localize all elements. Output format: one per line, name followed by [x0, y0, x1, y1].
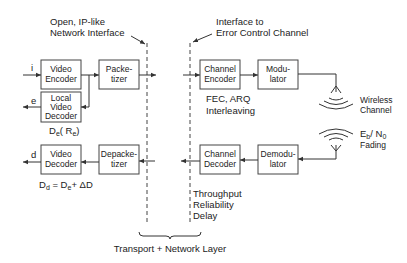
- encoder-distortion-label: De( Re): [49, 125, 80, 137]
- transport-network-layer-label: Transport + Network Layer: [114, 243, 226, 254]
- antenna-to-demodulator-arrow: [298, 145, 336, 159]
- video-decoder-block: Video Decoder: [41, 145, 81, 174]
- video-decoder-label-1: Video: [50, 149, 72, 159]
- demodulator-block: Demodu- lator: [258, 145, 298, 174]
- modulator-to-antenna-line: [298, 74, 336, 92]
- local-video-decoder-block: Local Video Decoder: [41, 92, 81, 122]
- depacketizer-block: Depacke- tizer: [99, 145, 139, 174]
- reliability-label: Reliability: [193, 199, 234, 210]
- video-encoder-label-2: Encoder: [45, 74, 77, 84]
- input-signal-label: i: [31, 62, 33, 73]
- open-interface-label-line2: Network Interface: [50, 27, 124, 38]
- channel-decoder-block: Channel Decoder: [200, 145, 240, 174]
- layer-brace: [139, 232, 201, 239]
- eb-n0-label: Eb/ N0: [360, 128, 386, 140]
- channel-decoder-label-2: Decoder: [204, 159, 236, 169]
- error-control-interface-pointer: [193, 34, 212, 42]
- channel-encoder-label-1: Channel: [204, 64, 236, 74]
- modulator-label-2: lator: [270, 74, 287, 84]
- demodulator-label-1: Demodu-: [261, 149, 296, 159]
- video-encoder-label-1: Video: [50, 64, 72, 74]
- wireless-label-2: Channel: [360, 105, 392, 115]
- modulator-block: Modu- lator: [258, 60, 298, 89]
- modulator-label-1: Modu-: [266, 64, 290, 74]
- local-decoder-label-3: Decoder: [45, 111, 77, 121]
- video-encoder-block: Video Encoder: [41, 60, 81, 89]
- error-control-interface-label-line1: Interface to: [216, 16, 264, 27]
- throughput-label: Throughput: [193, 188, 242, 199]
- depacketizer-label-1: Depacke-: [101, 149, 138, 159]
- local-output-label: e: [31, 95, 36, 106]
- interleaving-label: Interleaving: [206, 105, 255, 116]
- open-interface-label-line1: Open, IP-like: [50, 16, 105, 27]
- packetizer-block: Packe- tizer: [99, 60, 139, 89]
- demodulator-label-2: lator: [270, 159, 287, 169]
- video-decoder-label-2: Decoder: [45, 159, 77, 169]
- channel-encoder-label-2: Encoder: [204, 74, 236, 84]
- encoder-to-local-decoder-feedback: [81, 75, 89, 107]
- decoded-output-label: d: [31, 149, 36, 160]
- depacketizer-label-2: tizer: [111, 159, 127, 169]
- packetizer-label-1: Packe-: [106, 64, 133, 74]
- delay-label: Delay: [193, 210, 218, 221]
- channel-encoder-block: Channel Encoder: [200, 60, 240, 89]
- decoder-distortion-label: Dd = De+ ΔD: [39, 179, 93, 191]
- channel-decoder-label-1: Channel: [204, 149, 236, 159]
- video-transmission-diagram: Open, IP-like Network Interface Interfac…: [0, 0, 407, 263]
- open-interface-pointer: [131, 36, 145, 44]
- fec-arq-label: FEC, ARQ: [206, 93, 250, 104]
- packetizer-label-2: tizer: [111, 74, 127, 84]
- fading-label: Fading: [360, 140, 386, 150]
- error-control-interface-label-line2: Error Control Channel: [216, 27, 308, 38]
- wireless-label-1: Wireless: [360, 95, 393, 105]
